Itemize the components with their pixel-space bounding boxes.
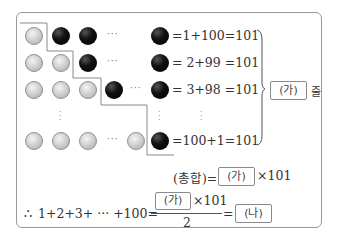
horizontal-dots: ··· — [130, 83, 142, 93]
therefore-symbol: ∴ — [24, 206, 32, 221]
horizontal-dots: ··· — [107, 134, 119, 144]
vertical-dots: ··· — [59, 110, 61, 122]
black-ball — [79, 27, 97, 45]
black-ball — [151, 27, 169, 45]
gray-ball — [25, 81, 43, 99]
total-blank-ga[interactable]: (가) — [218, 167, 255, 186]
fraction-bar — [151, 213, 222, 214]
black-ball — [151, 81, 169, 99]
gray-ball — [25, 27, 43, 45]
black-ball — [151, 132, 169, 150]
total-label: (총합)= — [173, 171, 217, 186]
black-ball — [79, 54, 97, 72]
gray-ball — [52, 81, 70, 99]
result-blank-na[interactable]: (나) — [235, 204, 272, 223]
fraction-blank-ga[interactable]: (가) — [155, 192, 191, 210]
black-ball — [52, 27, 70, 45]
row-1-equation: =1+100=101 — [172, 28, 259, 43]
equals-sign: = — [223, 206, 233, 221]
total-suffix: ×101 — [257, 168, 291, 183]
gray-ball — [52, 132, 70, 150]
gray-ball — [25, 132, 43, 150]
vertical-dots: ··· — [200, 110, 202, 122]
rows-suffix: 줄 — [311, 83, 321, 99]
row-2-equation: = 2+99 =101 — [172, 55, 259, 70]
horizontal-dots: ··· — [107, 29, 119, 39]
row-3-equation: = 3+98 =101 — [172, 82, 259, 97]
answer-blank-ga[interactable]: (가) — [270, 81, 307, 100]
vertical-dots: ··· — [158, 110, 160, 122]
sum-expression: 1+2+3+ ··· +100= — [38, 206, 158, 221]
gray-ball — [79, 132, 97, 150]
fraction-denominator: 2 — [183, 215, 191, 230]
black-ball — [105, 81, 123, 99]
gray-ball — [52, 54, 70, 72]
horizontal-dots: ··· — [107, 56, 119, 66]
gray-ball — [127, 132, 145, 150]
gray-ball — [25, 54, 43, 72]
total-prefix: (총합)= — [173, 168, 217, 187]
black-ball — [151, 54, 169, 72]
gray-ball — [79, 81, 97, 99]
row-last-equation: =100+1=101 — [172, 133, 259, 148]
